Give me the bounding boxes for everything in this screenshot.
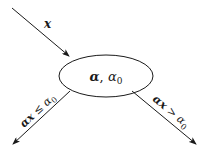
- diagram-svg: x α, α0 αx ≤ α0 αx > α0: [0, 0, 211, 156]
- right-edge-label: αx > α0: [149, 92, 192, 132]
- node-weight-symbol: α: [90, 69, 100, 84]
- left-edge-label: αx ≤ α0: [17, 91, 59, 132]
- input-label: x: [43, 17, 52, 31]
- node-threshold-subscript: 0: [117, 76, 123, 86]
- right-edge-label-group: αx > α0: [149, 92, 192, 132]
- input-arrow: [12, 8, 69, 56]
- decision-node-diagram: x α, α0 αx ≤ α0 αx > α0: [0, 0, 211, 156]
- node-threshold-symbol: α: [108, 69, 117, 84]
- left-edge-label-group: αx ≤ α0: [17, 91, 59, 132]
- node-separator: ,: [100, 69, 108, 84]
- node-label: α, α0: [90, 69, 123, 86]
